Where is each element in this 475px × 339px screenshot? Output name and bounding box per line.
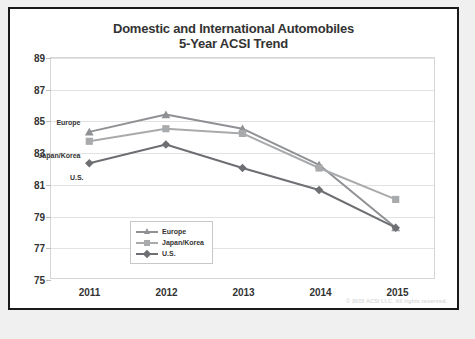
x-axis-tick-label: 2011	[79, 287, 101, 298]
chart-frame: Domestic and International Automobiles 5…	[8, 7, 459, 310]
y-axis-tick-mark	[46, 280, 51, 281]
legend-item-label: Japan/Korea	[162, 239, 204, 246]
title-line-2: 5-Year ACSI Trend	[10, 36, 457, 51]
y-axis-tick-label: 79	[34, 211, 45, 222]
diamond-marker	[85, 159, 94, 168]
square-marker	[162, 125, 169, 132]
y-axis-tick-label: 85	[34, 116, 45, 127]
chart-page: Domestic and International Automobiles 5…	[0, 0, 475, 339]
legend-item: Europe	[136, 226, 204, 237]
diamond-marker	[238, 164, 247, 173]
title-line-1: Domestic and International Automobiles	[113, 21, 354, 36]
x-axis-tick-label: 2012	[155, 287, 177, 298]
square-marker	[86, 138, 93, 145]
y-axis-tick-label: 77	[34, 243, 45, 254]
series-line	[89, 144, 395, 227]
x-axis-tick-label: 2013	[232, 287, 254, 298]
y-axis-tick-label: 75	[34, 275, 45, 286]
y-axis-tick-label: 89	[34, 53, 45, 64]
square-marker	[239, 130, 246, 137]
legend-item-label: Europe	[162, 228, 186, 235]
triangle-marker	[136, 226, 158, 237]
x-axis-tick-label: 2015	[386, 287, 408, 298]
y-axis-tick-label: 87	[34, 84, 45, 95]
plot-area: 7577798183858789 20112012201320142015 Eu…	[50, 57, 435, 279]
legend-item: Japan/Korea	[136, 237, 204, 248]
square-marker	[316, 164, 323, 171]
square-marker	[136, 237, 158, 248]
inline-label-u-s-: U.S.	[70, 174, 84, 181]
page-title: Domestic and International Automobiles 5…	[10, 21, 457, 51]
inline-label-japan-korea: Japan/Korea	[38, 152, 80, 159]
y-axis-tick-label: 81	[34, 179, 45, 190]
copyright-notice: © 2015 ACSI LLC. All rights reserved.	[346, 298, 447, 304]
diamond-marker	[315, 186, 324, 195]
legend-item: U.S.	[136, 248, 204, 259]
legend-item-label: U.S.	[162, 250, 176, 257]
chart-legend: EuropeJapan/KoreaU.S.	[130, 221, 213, 264]
diamond-marker	[162, 140, 171, 149]
square-marker	[392, 196, 399, 203]
series-lines	[51, 58, 434, 278]
inline-label-europe: Europe	[56, 118, 80, 125]
diamond-marker	[136, 248, 158, 259]
x-axis-tick-label: 2014	[309, 287, 331, 298]
